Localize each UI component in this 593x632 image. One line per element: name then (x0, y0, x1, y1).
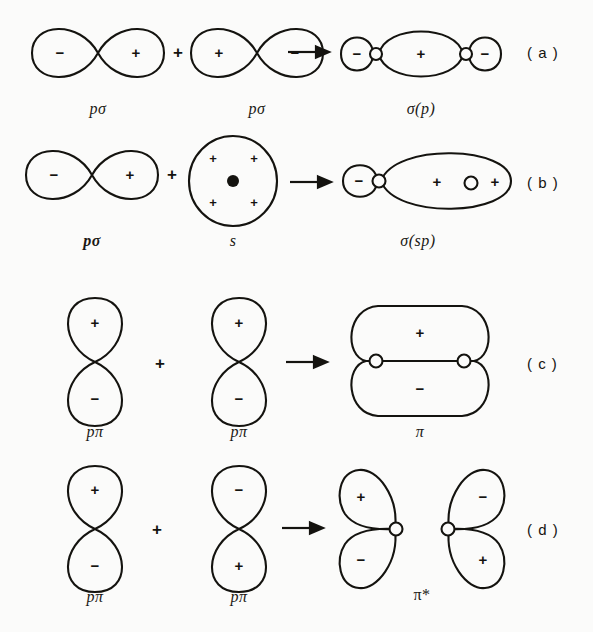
nucleus-node-left (373, 175, 386, 188)
p-sigma-orbital-horizontal: − + (28, 18, 168, 88)
s-orbital: + + + + (184, 134, 282, 228)
lobe-sign-negative-right: − (481, 45, 490, 62)
p-pi-orbital-vertical: − + (196, 460, 282, 598)
lobe-sign-negative-left: − (353, 45, 362, 62)
s-sign-1: + (209, 151, 217, 166)
reaction-arrow (286, 355, 328, 369)
lobe-sign-positive-top: + (416, 324, 425, 341)
row-c-reactant-1: + − (52, 292, 138, 432)
caption-row-b-reactant-2: s (173, 232, 293, 250)
lobe-sign-negative-bottom: − (91, 557, 100, 574)
nucleus-dot (227, 175, 239, 187)
caption-row-b-reactant-1: pσ (32, 232, 152, 250)
row-d-reactant-2: − + (196, 460, 282, 598)
nucleus-node-left (370, 355, 383, 368)
arrow-right-icon (290, 175, 332, 189)
lobe-sign-positive-inner-2: + (491, 173, 500, 190)
nucleus-node (442, 523, 455, 536)
plus-operator: + (173, 44, 183, 61)
row-c-product: + − (340, 298, 500, 424)
row-b-product: − + + (337, 136, 517, 228)
s-sign-2: + (250, 151, 258, 166)
pi-antibonding-half-left: + − (333, 462, 409, 596)
caption-row-c-product: π (360, 423, 480, 441)
plus-operator: + (167, 166, 177, 183)
lobe-sign-positive-top: + (91, 481, 100, 498)
row-label-b: ( b ) (527, 174, 559, 191)
lobe-sign-positive-top: + (91, 314, 100, 331)
caption-row-d-reactant-1: pπ (35, 588, 155, 606)
pi-bonding-orbital: + − (340, 298, 500, 424)
p-pi-orbital-vertical: + − (196, 292, 282, 432)
lobe-sign-negative-top: − (479, 488, 488, 505)
lobe-sign-negative: − (56, 44, 65, 61)
row-b-reactant-1: − + (22, 140, 162, 210)
row-label-d: ( d ) (527, 521, 559, 538)
p-pi-orbital-vertical: + − (52, 292, 138, 432)
caption-row-d-product: π* (362, 586, 482, 604)
row-a-reactant-1: − + (28, 18, 168, 88)
lobe-sign-positive: + (215, 44, 224, 61)
lobe-sign-positive-bottom: + (235, 557, 244, 574)
caption-row-a-reactant-2: pσ (197, 100, 317, 118)
reaction-arrow (288, 45, 330, 59)
nucleus-node-right (458, 355, 471, 368)
lobe-sign-positive-top: + (357, 488, 366, 505)
caption-row-a-product: σ(p) (361, 100, 481, 118)
lobe-sign-negative-top: − (235, 481, 244, 498)
lobe-sign-negative-bottom: − (416, 380, 425, 397)
s-sign-3: + (209, 195, 217, 210)
row-b-reactant-2: + + + + (184, 134, 282, 228)
row-c-reactant-2: + − (196, 292, 282, 432)
lobe-sign-positive-inner-1: + (433, 173, 442, 190)
arrow-right-icon (288, 45, 330, 59)
lobe-sign-positive: + (126, 166, 135, 183)
row-label-a: ( a ) (527, 44, 559, 61)
plus-operator: + (152, 521, 162, 538)
figure-canvas: − + + + − − + − pσ p (0, 0, 593, 632)
lobe-sign-positive-center: + (417, 45, 426, 62)
pi-antibonding-half-right: − + (435, 462, 511, 596)
p-sigma-orbital-horizontal: − + (22, 140, 162, 210)
row-a-product: − + − (337, 14, 505, 94)
arrow-right-icon (282, 521, 324, 535)
sigma-p-molecular-orbital: − + − (337, 14, 505, 94)
p-pi-orbital-vertical: + − (52, 460, 138, 598)
reaction-arrow (282, 521, 324, 535)
lobe-sign-negative: − (50, 166, 59, 183)
row-label-c: ( c ) (527, 355, 558, 372)
caption-row-c-reactant-2: pπ (179, 423, 299, 441)
caption-row-b-product: σ(sp) (358, 232, 478, 250)
lobe-sign-negative: − (355, 172, 364, 189)
plus-operator: + (155, 355, 165, 372)
lobe-sign-negative-bottom: − (91, 390, 100, 407)
sigma-sp-molecular-orbital: − + + (337, 136, 517, 228)
caption-row-a-reactant-1: pσ (38, 100, 158, 118)
lobe-sign-positive-top: + (235, 314, 244, 331)
s-sign-4: + (250, 195, 258, 210)
nucleus-node-right (460, 48, 472, 60)
lobe-sign-negative-bottom: − (357, 551, 366, 568)
caption-row-d-reactant-2: pπ (179, 588, 299, 606)
nucleus-node-left (370, 48, 382, 60)
row-d-reactant-1: + − (52, 460, 138, 598)
row-d-product-left: + − (333, 462, 409, 596)
lobe-sign-positive-bottom: + (479, 551, 488, 568)
reaction-arrow (290, 175, 332, 189)
nucleus-node (390, 523, 403, 536)
lobe-sign-positive: + (132, 44, 141, 61)
arrow-right-icon (286, 355, 328, 369)
caption-row-c-reactant-1: pπ (35, 423, 155, 441)
nucleus-node-right (465, 177, 478, 190)
lobe-sign-negative-bottom: − (235, 390, 244, 407)
row-d-product-right: − + (435, 462, 511, 596)
